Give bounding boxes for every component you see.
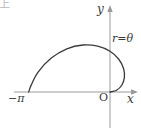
y-axis-arrowhead [107,5,112,12]
x-axis-label: x [127,93,134,105]
x-axis-neg-pi-label: −π [8,93,24,104]
polar-curve-figure: 上 y x O −π r=θ [0,0,141,136]
y-axis-label: y [97,3,104,15]
origin-label: O [99,92,108,103]
figure-canvas [0,0,141,136]
curve-equation-label: r=θ [112,33,133,44]
